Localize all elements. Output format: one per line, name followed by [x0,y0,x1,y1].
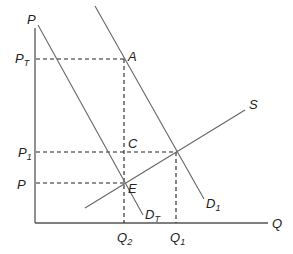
curve-label-d1: D1 [206,196,220,213]
curve-label-dt: DT [145,207,161,224]
quantity-label-q1: Q1 [170,230,185,247]
price-label-p1: P1 [18,145,32,162]
supply-curve-s [85,110,245,208]
point-label-a: A [127,49,137,64]
point-label-e: E [128,181,137,196]
x-axis-label: Q [272,216,282,231]
price-label-p: P [17,177,26,192]
demand-curve-d1 [95,6,204,199]
quantity-label-q2: Q2 [117,230,132,247]
supply-demand-diagram: P Q PT P1 P Q2 Q1 A C E D1 DT S [0,0,293,254]
price-label-pt: PT [15,51,31,68]
curve-label-s: S [249,97,258,112]
y-axis-label: P [27,12,36,27]
point-label-c: C [128,136,138,151]
